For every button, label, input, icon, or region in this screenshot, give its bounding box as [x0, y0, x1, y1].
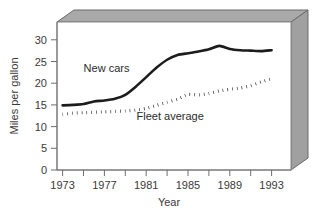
y-axis-tick-labels: 0 5 10 15 20 25 30 [35, 34, 47, 176]
x-tick-label-1977: 1977 [92, 179, 116, 191]
x-tick-label-1989: 1989 [218, 179, 242, 191]
y-tick-label-20: 20 [35, 77, 47, 89]
y-tick-label-10: 10 [35, 121, 47, 133]
x-tick-label-1993: 1993 [259, 179, 283, 191]
chart-figure: 0 5 10 15 20 25 30 1973 1977 1981 [0, 0, 330, 215]
y-tick-label-25: 25 [35, 56, 47, 68]
y-axis-title: Miles per gallon [8, 57, 20, 134]
y-tick-label-0: 0 [41, 164, 47, 176]
x-axis-tick-labels: 1973 1977 1981 1985 1989 1993 [50, 179, 283, 191]
y-tick-label-5: 5 [41, 142, 47, 154]
y-tick-label-15: 15 [35, 99, 47, 111]
x-tick-label-1973: 1973 [50, 179, 74, 191]
series-label-fleet-average: Fleet average [137, 110, 204, 122]
x-axis-ticks [63, 170, 272, 176]
panel-right-face [291, 10, 308, 170]
x-tick-label-1981: 1981 [134, 179, 158, 191]
y-tick-label-30: 30 [35, 34, 47, 46]
y-axis-ticks [51, 40, 57, 170]
x-tick-label-1985: 1985 [176, 179, 200, 191]
series-label-new-cars: New cars [84, 62, 130, 74]
plot-area [57, 22, 291, 170]
panel-top-face [57, 10, 308, 22]
x-axis-title: Year [158, 196, 181, 208]
mpg-line-chart: 0 5 10 15 20 25 30 1973 1977 1981 [0, 0, 330, 215]
